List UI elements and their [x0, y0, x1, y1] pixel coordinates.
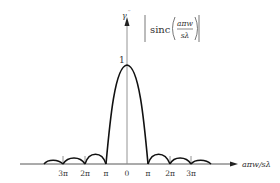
y-axis-label: γ	[122, 11, 127, 20]
y-axis-label-superscript: ′′	[128, 9, 131, 15]
x-axis-label: aπw/sλ	[242, 160, 271, 169]
x-tick-labels: 3π 2π π 0 π 2π 3π	[58, 169, 196, 178]
formula-denominator: sλ	[181, 31, 190, 40]
tick-label-3pi: 3π	[186, 169, 196, 178]
tick-label-neg-pi: π	[104, 169, 109, 178]
tick-label-neg-2pi: 2π	[80, 169, 90, 178]
tick-label-neg-3pi: 3π	[58, 169, 68, 178]
tick-label-origin: 0	[125, 169, 130, 178]
sinc-diagram: γ ′′ 1 sinc aπw sλ aπw/sλ 3π 2π π 0 π 2π…	[0, 0, 280, 183]
formula-numerator: aπw	[177, 19, 193, 28]
peak-label: 1	[119, 55, 125, 65]
x-axis-arrow-icon	[230, 162, 238, 167]
formula: sinc aπw sλ	[145, 15, 199, 42]
formula-sinc: sinc	[150, 24, 171, 35]
tick-label-2pi: 2π	[165, 169, 175, 178]
side-lobe-curves	[44, 154, 211, 164]
tick-label-pi: π	[146, 169, 151, 178]
